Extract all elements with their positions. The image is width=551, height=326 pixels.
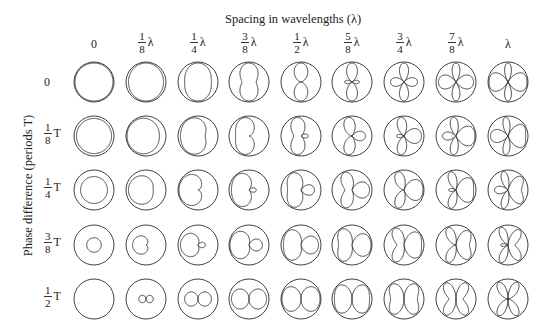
pattern-curve: [489, 63, 527, 101]
pattern-curve: [283, 230, 318, 260]
pattern-curve: [397, 117, 422, 155]
pattern-curve: [230, 231, 262, 258]
radiation-pattern-cell: [74, 279, 114, 319]
radiation-pattern-cell: [332, 116, 372, 156]
radiation-pattern-cell: [74, 170, 114, 210]
pattern-curve: [81, 177, 108, 204]
pattern-curve: [345, 63, 360, 101]
pattern-curve: [127, 118, 159, 154]
radiation-pattern-cell: [436, 170, 476, 210]
pattern-curve: [282, 287, 320, 312]
radiation-pattern-cell: [229, 62, 269, 102]
radiation-pattern-cell: [332, 225, 372, 265]
boundary-circle: [74, 116, 114, 156]
boundary-circle: [74, 225, 114, 265]
pattern-curve: [179, 174, 202, 205]
boundary-circle: [436, 62, 476, 102]
boundary-circle: [178, 62, 218, 102]
pattern-curve: [240, 63, 258, 101]
pattern-curve: [185, 63, 212, 101]
boundary-circle: [178, 116, 218, 156]
boundary-circle: [436, 116, 476, 156]
pattern-curve: [495, 172, 524, 209]
pattern-curve: [448, 172, 473, 209]
pattern-curve: [341, 172, 370, 208]
boundary-circle: [332, 62, 372, 102]
radiation-pattern-cell: [332, 279, 372, 319]
pattern-curve: [87, 238, 102, 253]
pattern-curve: [76, 118, 111, 153]
boundary-circle: [126, 170, 166, 210]
boundary-circle: [74, 279, 114, 319]
boundary-circle: [332, 225, 372, 265]
radiation-pattern-cell: [281, 62, 321, 102]
pattern-curve: [139, 295, 154, 302]
radiation-pattern-cell: [74, 116, 114, 156]
boundary-circle: [229, 225, 269, 265]
boundary-circle: [126, 62, 166, 102]
boundary-circle: [488, 225, 528, 265]
radiation-pattern-cell: [281, 116, 321, 156]
pattern-curve: [443, 117, 475, 155]
pattern-curve: [128, 176, 153, 204]
radiation-pattern-cell: [229, 225, 269, 265]
pattern-curve: [75, 63, 113, 101]
radiation-pattern-cell: [178, 116, 218, 156]
radiation-pattern-cell: [126, 170, 166, 210]
pattern-curve: [338, 229, 371, 261]
radiation-pattern-cell: [74, 225, 114, 265]
radiation-pattern-cell: [281, 279, 321, 319]
boundary-circle: [281, 116, 321, 156]
pattern-curve: [344, 117, 366, 154]
pattern-curve: [490, 117, 525, 155]
boundary-circle: [488, 116, 528, 156]
radiation-pattern-cell: [126, 279, 166, 319]
radiation-pattern-cell: [126, 116, 166, 156]
radiation-pattern-cell: [436, 279, 476, 319]
boundary-circle: [384, 225, 424, 265]
radiation-pattern-cell: [384, 116, 424, 156]
radiation-pattern-cell: [488, 62, 528, 102]
pattern-curve: [180, 233, 205, 256]
radiation-pattern-cell: [229, 116, 269, 156]
radiation-pattern-cell: [332, 170, 372, 210]
radiation-pattern-cell: [126, 62, 166, 102]
radiation-pattern-cell: [332, 62, 372, 102]
pattern-curve: [446, 228, 471, 263]
boundary-circle: [281, 225, 321, 265]
radiation-pattern-cell: [436, 116, 476, 156]
pattern-curve: [180, 118, 205, 154]
radiation-pattern-cell: [178, 62, 218, 102]
radiation-pattern-cell: [384, 225, 424, 265]
boundary-circle: [229, 62, 269, 102]
radiation-pattern-cell: [178, 170, 218, 210]
radiation-pattern-cell: [229, 170, 269, 210]
radiation-pattern-cell: [488, 225, 528, 265]
radiation-pattern-cell: [488, 116, 528, 156]
radiation-pattern-cell: [488, 170, 528, 210]
pattern-curve: [443, 283, 468, 315]
radiation-pattern-cell: [178, 279, 218, 319]
pattern-curve: [185, 292, 212, 306]
boundary-circle: [74, 62, 114, 102]
pattern-curve: [291, 117, 308, 154]
radiation-pattern-cell: [384, 170, 424, 210]
pattern-curve: [497, 282, 519, 316]
radiation-pattern-cell: [126, 225, 166, 265]
radiation-pattern-cell: [488, 279, 528, 319]
pattern-curve: [334, 285, 369, 313]
pattern-curve: [438, 63, 473, 101]
pattern-curve: [391, 63, 418, 101]
radiation-pattern-grid: [0, 0, 551, 326]
pattern-curve: [392, 228, 421, 262]
radiation-pattern-cell: [436, 225, 476, 265]
pattern-curve: [133, 236, 148, 254]
radiation-pattern-cell: [281, 225, 321, 265]
pattern-curve: [499, 227, 521, 263]
radiation-pattern-cell: [436, 62, 476, 102]
radiation-pattern-cell: [384, 279, 424, 319]
pattern-curve: [231, 289, 266, 309]
pattern-curve: [236, 118, 255, 155]
pattern-curve: [294, 63, 308, 101]
pattern-curve: [395, 172, 423, 208]
